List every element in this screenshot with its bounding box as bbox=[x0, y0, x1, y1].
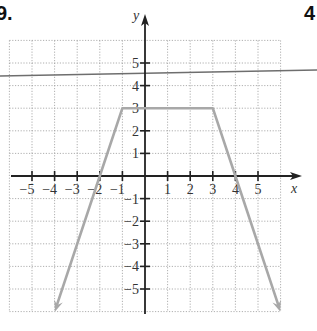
x-axis-label: x bbox=[290, 181, 298, 196]
y-tick-label: 5 bbox=[132, 56, 139, 71]
problem-number-right: 4 bbox=[304, 2, 316, 24]
x-tick-label: −5 bbox=[20, 182, 35, 197]
y-tick-label: −2 bbox=[124, 214, 139, 229]
x-tick-label: −1 bbox=[110, 182, 125, 197]
coordinate-plane: −5−4−3−2−112345 54321−1−2−3−4−5 x y 9. 4 bbox=[0, 0, 317, 331]
trapezoid-graph bbox=[56, 108, 279, 307]
y-tick-label: −5 bbox=[124, 282, 139, 297]
problem-number-left: 9. bbox=[0, 2, 13, 24]
y-tick-label: −4 bbox=[124, 259, 139, 274]
x-tick-label: 3 bbox=[209, 182, 216, 197]
y-tick-label: 1 bbox=[132, 146, 139, 161]
y-tick-label: −1 bbox=[124, 192, 139, 207]
x-tick-labels: −5−4−3−2−112345 bbox=[20, 182, 262, 197]
x-tick-label: −4 bbox=[42, 182, 57, 197]
y-tick-label: 4 bbox=[132, 79, 139, 94]
x-tick-label: 1 bbox=[164, 182, 171, 197]
y-tick-label: 2 bbox=[132, 124, 139, 139]
axes bbox=[11, 20, 296, 314]
y-axis-label: y bbox=[131, 8, 140, 23]
overlay-line bbox=[0, 70, 317, 76]
y-tick-label: −3 bbox=[124, 237, 139, 252]
x-tick-label: 5 bbox=[255, 182, 262, 197]
x-tick-label: −3 bbox=[65, 182, 80, 197]
x-tick-label: 2 bbox=[187, 182, 194, 197]
